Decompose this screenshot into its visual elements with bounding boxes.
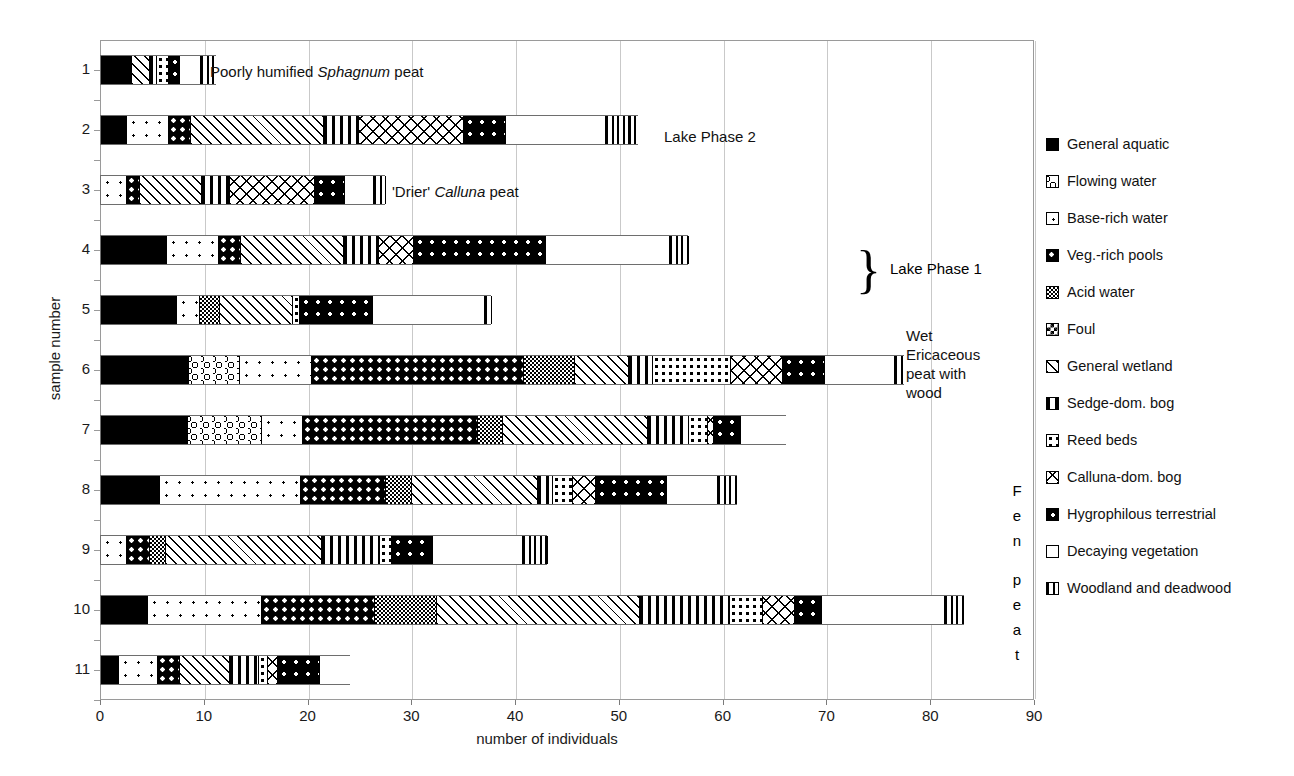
bar-segment-sedge-dom-bog [537, 476, 553, 504]
bar-segment-hygrophilous [463, 116, 505, 144]
legend-item-calluna-dom-bog[interactable]: Calluna-dom. bog [1046, 469, 1286, 486]
x-tick-label: 10 [184, 707, 224, 724]
legend-item-label: General wetland [1067, 358, 1173, 375]
bar-segment-woodland [669, 236, 690, 264]
legend-item-base-rich-water[interactable]: Base-rich water [1046, 210, 1286, 227]
bar-row-10 [100, 595, 964, 625]
y-tick [94, 430, 100, 431]
legend-item-general-aquatic[interactable]: General aquatic [1046, 136, 1286, 153]
bar-segment-hygrophilous [299, 296, 372, 324]
bar-row-8 [100, 475, 737, 505]
y-tick-minor [94, 280, 100, 281]
bar-segment-reed-beds [292, 296, 299, 324]
legend-item-acid-water[interactable]: Acid water [1046, 284, 1286, 301]
bar-segment-general-aquatic [101, 656, 118, 684]
bar-segment-hygrophilous [713, 416, 740, 444]
bar-segment-reed-beds [156, 56, 168, 84]
legend-item-flowing-water[interactable]: Flowing water [1046, 173, 1286, 190]
y-tick-label: 8 [50, 480, 90, 497]
legend-item-label: Foul [1067, 321, 1095, 338]
bar-segment-general-wetland [411, 476, 537, 504]
general-wetland-swatch-icon [1046, 360, 1059, 373]
bar-segment-base-rich-water [176, 296, 199, 324]
bar-row-3 [100, 175, 385, 205]
y-tick-minor [94, 220, 100, 221]
bar-segment-general-aquatic [101, 356, 188, 384]
gridline [1035, 41, 1036, 699]
bar-row-4 [100, 235, 688, 265]
legend-item-label: Decaying vegetation [1067, 543, 1198, 560]
bar-segment-decaying-vegetation [666, 476, 718, 504]
bar-segment-general-aquatic [101, 116, 126, 144]
bar-segment-acid-water [374, 596, 436, 624]
legend-item-veg-rich-pools[interactable]: Veg.-rich pools [1046, 247, 1286, 264]
bar-segment-base-rich-water [101, 536, 126, 564]
x-tick-label: 80 [910, 707, 950, 724]
x-tick [826, 700, 827, 705]
bar-segment-hygrophilous [391, 536, 433, 564]
bar-segment-general-aquatic [101, 296, 176, 324]
legend-item-reed-beds[interactable]: Reed beds [1046, 432, 1286, 449]
bar-segment-general-wetland [190, 116, 323, 144]
bar-segment-woodland [944, 596, 966, 624]
y-tick-label: 4 [50, 240, 90, 257]
bar-segment-acid-water [477, 416, 502, 444]
general-aquatic-swatch-icon [1046, 138, 1059, 151]
legend-item-label: Acid water [1067, 284, 1135, 301]
bar-segment-hygrophilous [782, 356, 825, 384]
bar-segment-hygrophilous [794, 596, 821, 624]
legend-item-general-wetland[interactable]: General wetland [1046, 358, 1286, 375]
bar-segment-flowing-water [188, 356, 239, 384]
bar-segment-calluna-dom-bog [762, 596, 794, 624]
bar-segment-general-wetland [574, 356, 628, 384]
legend-item-hygrophilous[interactable]: Hygrophilous terrestrial [1046, 506, 1286, 523]
bar-segment-veg-rich-pools [168, 116, 190, 144]
veg-rich-pools-swatch-icon [1046, 249, 1059, 262]
y-tick [94, 310, 100, 311]
y-tick-minor [94, 520, 100, 521]
bar-row-9 [100, 535, 547, 565]
bar-segment-general-wetland [240, 236, 343, 264]
bar-row-7 [100, 415, 786, 445]
bar-segment-veg-rich-pools [126, 176, 139, 204]
x-tick-label: 30 [391, 707, 431, 724]
y-tick-label: 3 [50, 180, 90, 197]
flowing-water-swatch-icon [1046, 175, 1059, 188]
bar-segment-calluna-dom-bog [378, 236, 413, 264]
bar-segment-acid-water [385, 476, 411, 504]
bar-segment-hygrophilous [168, 56, 178, 84]
legend-item-woodland[interactable]: Woodland and deadwood [1046, 580, 1286, 597]
foul-swatch-icon [1046, 323, 1059, 336]
x-tick-label: 20 [288, 707, 328, 724]
y-tick [94, 370, 100, 371]
x-tick [308, 700, 309, 705]
y-tick-minor [94, 160, 100, 161]
legend-item-foul[interactable]: Foul [1046, 321, 1286, 338]
bar-segment-decaying-vegetation [372, 296, 484, 324]
bar-segment-general-aquatic [101, 416, 187, 444]
legend-item-sedge-dom-bog[interactable]: Sedge-dom. bog [1046, 395, 1286, 412]
brace-lake-phase-1: } [856, 244, 881, 296]
bar-segment-sedge-dom-bog [628, 356, 652, 384]
fen-peat-char: e [1004, 503, 1030, 528]
legend-item-label: Base-rich water [1067, 210, 1168, 227]
legend-item-decaying-vegetation[interactable]: Decaying vegetation [1046, 543, 1286, 560]
bar-segment-decaying-vegetation [505, 116, 606, 144]
y-tick-label: 1 [50, 60, 90, 77]
bar-segment-sedge-dom-bog [201, 176, 229, 204]
x-axis-title-text: number of individuals [476, 730, 618, 747]
bar-segment-hygrophilous [277, 656, 319, 684]
legend-item-label: Woodland and deadwood [1067, 580, 1231, 597]
x-tick [411, 700, 412, 705]
y-axis-title: sample number [46, 269, 63, 429]
legend-item-label: Veg.-rich pools [1067, 247, 1163, 264]
bar-segment-general-wetland [165, 536, 321, 564]
fen-peat-char: n [1004, 528, 1030, 553]
bar-segment-decaying-vegetation [432, 536, 522, 564]
y-tick-label: 2 [50, 120, 90, 137]
bar-segment-reed-beds [729, 596, 762, 624]
legend-item-label: Sedge-dom. bog [1067, 395, 1174, 412]
bar-segment-sedge-dom-bog [229, 656, 258, 684]
x-axis-title: number of individuals [0, 730, 1294, 747]
bar-segment-decaying-vegetation [545, 236, 668, 264]
